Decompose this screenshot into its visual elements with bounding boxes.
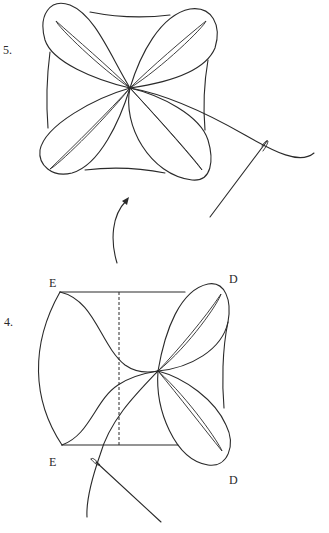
corner-label-top-left: E <box>49 276 56 290</box>
thread-step-4 <box>87 371 158 517</box>
step-5-figure <box>40 3 314 180</box>
petal-bottom-right <box>158 371 231 465</box>
step-5-label: 5. <box>3 43 12 57</box>
needle-icon-step-5 <box>210 141 268 217</box>
diagram-canvas: 5. 4. <box>0 0 329 533</box>
slit-bottom-left <box>50 88 130 169</box>
square-top-edge <box>90 12 170 17</box>
slit-bottom-right <box>130 88 202 170</box>
slit-top-right <box>130 21 206 88</box>
petal-top-right <box>158 284 229 371</box>
left-curved-edge <box>38 292 62 445</box>
corner-label-top-right: D <box>229 272 238 286</box>
slit-bottom-right <box>158 371 222 451</box>
petal-bottom-left <box>40 88 130 174</box>
square-left-edge <box>47 52 50 128</box>
thread-step-5 <box>130 88 314 158</box>
step-4-figure <box>38 284 230 517</box>
needle-icon-step-4 <box>91 458 161 522</box>
corner-label-bottom-right: D <box>229 473 238 487</box>
lower-s-curve <box>62 371 158 445</box>
upper-s-curve <box>60 292 158 372</box>
curved-arrow-icon <box>113 197 129 263</box>
step-4-label: 4. <box>4 315 13 329</box>
square-right-edge <box>204 60 208 130</box>
slit-top-left <box>56 21 130 88</box>
corner-label-bottom-left: E <box>49 455 56 469</box>
square-bottom-edge <box>85 168 165 173</box>
